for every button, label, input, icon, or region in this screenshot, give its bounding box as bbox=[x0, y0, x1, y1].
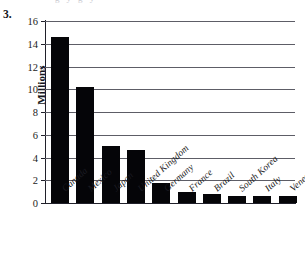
y-axis-tick bbox=[41, 180, 45, 181]
y-axis-tick bbox=[41, 135, 45, 136]
gridline bbox=[45, 21, 295, 22]
y-axis-tick bbox=[41, 89, 45, 90]
y-axis-tick-label: 16 bbox=[28, 16, 39, 27]
y-axis-tick bbox=[41, 112, 45, 113]
y-axis-tick-label: 4 bbox=[33, 152, 38, 163]
exercise-number: 3. bbox=[3, 8, 12, 20]
y-axis-tick-label: 8 bbox=[33, 107, 38, 118]
bar bbox=[279, 196, 297, 203]
bar bbox=[51, 37, 69, 203]
y-axis-tick bbox=[41, 203, 45, 204]
bar bbox=[228, 196, 246, 203]
y-axis-tick bbox=[41, 44, 45, 45]
bar bbox=[253, 196, 271, 203]
gridline bbox=[45, 67, 295, 68]
y-axis-tick-label: 12 bbox=[28, 61, 39, 72]
bar bbox=[203, 194, 221, 203]
y-axis-tick bbox=[41, 67, 45, 68]
y-axis-tick-label: 10 bbox=[28, 84, 39, 95]
y-axis-tick-label: 6 bbox=[33, 129, 38, 140]
y-axis-tick-label: 2 bbox=[33, 175, 38, 186]
gridline bbox=[45, 44, 295, 45]
y-axis-tick bbox=[41, 21, 45, 22]
y-axis-tick-label: 0 bbox=[33, 198, 38, 209]
bar-chart-figure: 3. Millions 0246810121416 CanadaMexicoJa… bbox=[0, 0, 305, 275]
x-axis-baseline bbox=[45, 203, 296, 204]
y-axis-tick-label: 14 bbox=[28, 38, 39, 49]
y-axis-tick bbox=[41, 158, 45, 159]
